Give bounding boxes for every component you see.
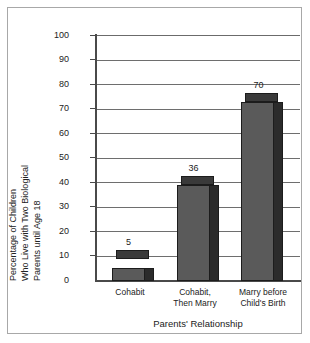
x-category-label-cohabit-then-marry: Cohabit, Then Marry [165, 287, 225, 308]
bar-value-label-cohabit-then-marry: 36 [171, 164, 216, 173]
bar-front-face [112, 268, 145, 281]
bar-cohabit-then-marry [177, 176, 210, 281]
bar-cohabit [112, 250, 145, 281]
y-axis-line [95, 34, 97, 282]
x-category-label-line-2: Child's Birth [230, 298, 296, 309]
bar-top-face [116, 250, 149, 259]
x-axis-title: Parents' Relationship [96, 318, 300, 329]
bar-marry-before-childs-birth [241, 93, 274, 281]
y-tick-label-70: 70 [29, 104, 69, 113]
y-tick-label-0: 0 [29, 276, 69, 285]
figure-frame: Percentage of Children Who Live with Two… [7, 7, 302, 334]
x-category-label-line-1: Cohabit [100, 287, 160, 298]
y-axis-title-line-1: Percentage of Children [9, 189, 18, 281]
bar-side-face [145, 268, 154, 281]
y-tick-label-100: 100 [29, 31, 69, 40]
y-tick-label-20: 20 [29, 227, 69, 236]
y-tick-label-60: 60 [29, 129, 69, 138]
bar-value-label-marry-before-childs-birth: 70 [236, 81, 281, 90]
y-tick-label-80: 80 [29, 80, 69, 89]
y-axis-title-line-3: Parents until Age 18 [33, 200, 42, 281]
bar-side-face [210, 185, 219, 281]
x-category-label-cohabit: Cohabit [100, 287, 160, 298]
x-category-label-line-2: Then Marry [165, 298, 225, 309]
bar-side-face [274, 102, 283, 281]
gridline-100 [96, 35, 300, 36]
bar-chart-figure: Percentage of Children Who Live with Two… [0, 0, 310, 343]
x-category-label-marry-before-childs-birth: Marry before Child's Birth [230, 287, 296, 308]
x-category-label-line-1: Marry before [230, 287, 296, 298]
y-tick-label-10: 10 [29, 251, 69, 260]
y-tick-label-90: 90 [29, 55, 69, 64]
y-tick-label-30: 30 [29, 202, 69, 211]
bar-front-face [177, 185, 210, 281]
bar-front-face [241, 102, 274, 281]
bar-top-face [181, 176, 214, 185]
gridline-90 [96, 60, 300, 61]
y-tick-label-50: 50 [29, 153, 69, 162]
y-tick-label-40: 40 [29, 178, 69, 187]
x-category-label-line-1: Cohabit, [165, 287, 225, 298]
bar-value-label-cohabit: 5 [106, 238, 151, 247]
bar-top-face [245, 93, 278, 102]
